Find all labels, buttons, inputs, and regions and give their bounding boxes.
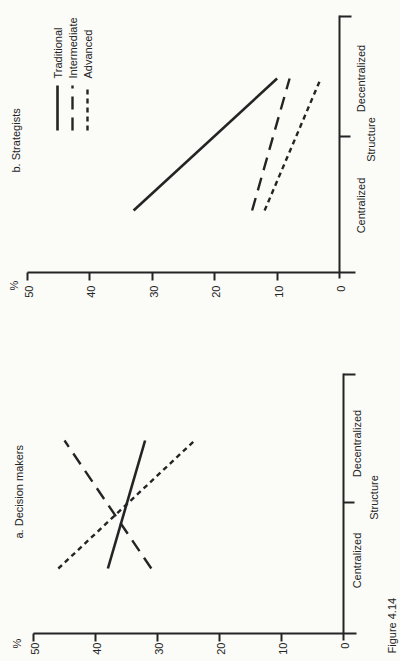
chart-b-x-axis-label: Structure <box>364 117 376 162</box>
chart-a-ytick-40: 40 <box>90 642 102 654</box>
chart-a-ytick-30: 30 <box>152 642 164 654</box>
chart-a-ytick-0: 0 <box>338 642 350 648</box>
chart-a-category-centralized: Centralized <box>350 532 362 588</box>
figure-caption: Figure 4.14 <box>385 597 397 653</box>
chart-a-ytick-20: 20 <box>214 642 226 654</box>
chart-a-ytick-10: 10 <box>276 642 288 654</box>
chart-b-title: b. Strategists <box>9 107 21 172</box>
chart-b-ytick-20: 20 <box>209 285 221 297</box>
chart-b-category-decentralized: Decentralized <box>354 44 366 111</box>
series-line-traditional <box>133 78 277 210</box>
chart-b-series-lines <box>133 78 320 210</box>
chart-b-ytick-30: 30 <box>147 285 159 297</box>
chart-b-ytick-10: 10 <box>272 285 284 297</box>
chart-a-decision-makers: a. Decision makers 50 <box>10 373 379 654</box>
chart-b-category-centralized: Centralized <box>354 177 366 233</box>
chart-b-legend: Traditional Intermediate Advanced <box>51 17 93 130</box>
chart-b-ytick-40: 40 <box>84 285 96 297</box>
chart-a-x-axis-label: Structure <box>367 475 379 520</box>
chart-b-y-axis-label: % <box>7 280 19 290</box>
chart-a-category-decentralized: Decentralized <box>350 409 362 476</box>
chart-b-strategists: b. Strategists Traditional Intermediate … <box>7 15 376 297</box>
series-line-intermediate <box>64 440 151 568</box>
chart-b-ytick-0: 0 <box>334 285 346 291</box>
figure-canvas: a. Decision makers 50 <box>0 0 400 661</box>
chart-b-x-ticks <box>339 16 351 136</box>
legend-label-traditional: Traditional <box>51 27 63 78</box>
series-line-advanced <box>264 78 320 210</box>
chart-b-ytick-50: 50 <box>22 285 34 297</box>
chart-a-title: a. Decision makers <box>12 444 24 538</box>
chart-a-y-axis-label: % <box>10 638 22 648</box>
legend-label-advanced: Advanced <box>81 29 93 78</box>
chart-a-series-lines <box>58 440 194 568</box>
scanned-figure-page: a. Decision makers 50 <box>0 0 400 661</box>
figure-svg: a. Decision makers 50 <box>0 0 400 661</box>
chart-a-ytick-50: 50 <box>28 642 40 654</box>
legend-label-intermediate: Intermediate <box>66 17 78 78</box>
